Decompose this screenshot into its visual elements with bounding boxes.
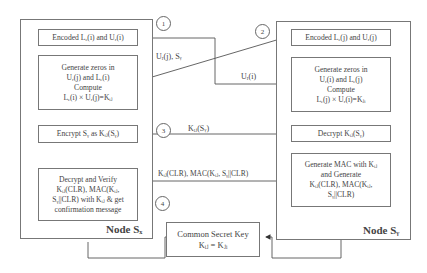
encrypt-sy-text: Encrypt Sᵧ as Kᵢⱼ(Sᵧ) bbox=[57, 129, 119, 139]
edge-label-uc-j-sy: Uᵣ(j), Sᵧ bbox=[156, 52, 182, 61]
line: Uᵣ(i) and Lₑ(j) bbox=[320, 75, 363, 85]
generate-mac-box: Generate MAC with Kᵢⱼ and Generate Kᵢⱼ(C… bbox=[291, 153, 391, 207]
line: Kᵢⱼ = Kⱼᵢ bbox=[199, 240, 228, 251]
step-2-marker: 2 bbox=[255, 24, 270, 39]
edge-label-mac-message: Kᵢⱼ(CLR), MAC(Kᵢⱼ, Sᵧ||CLR) bbox=[158, 169, 248, 178]
line: Common Secret Key bbox=[177, 229, 248, 240]
encoded-sx-text: Encoded Lₑ(i) and Uᵣ(i) bbox=[52, 33, 123, 43]
line: Sᵧ||CLR) with Kᵢⱼ & get bbox=[52, 195, 124, 205]
decrypt-verify-box: Decrypt and Verify Kᵢⱼ(CLR), MAC(Kᵢⱼ, Sᵧ… bbox=[38, 168, 138, 221]
line: and Generate bbox=[321, 170, 361, 180]
line: Lₑ(j) × Uᵣ(i)=Kⱼᵢ bbox=[316, 95, 365, 105]
line: Generate zeros in bbox=[314, 65, 367, 75]
step-4-marker: 4 bbox=[155, 196, 170, 211]
encoded-sy-text: Encoded Lₑ(j) and Uᵣ(j) bbox=[305, 33, 376, 43]
line: Kᵢⱼ(CLR), MAC(Kᵢⱼ, bbox=[57, 185, 120, 195]
line: Compute bbox=[74, 83, 102, 93]
step-3-marker: 3 bbox=[156, 123, 171, 138]
encrypt-sy-box: Encrypt Sᵧ as Kᵢⱼ(Sᵧ) bbox=[38, 125, 138, 143]
encoded-sy-box: Encoded Lₑ(j) and Uᵣ(j) bbox=[291, 29, 391, 46]
line: confirmation message bbox=[55, 205, 122, 215]
common-secret-key-box: Common Secret Key Kᵢⱼ = Kⱼᵢ bbox=[166, 222, 260, 257]
line: Kᵢⱼ(CLR), MAC(Kᵢⱼ, bbox=[310, 180, 373, 190]
edge-label-uc-i: Uᵣ(i) bbox=[241, 72, 256, 81]
generate-zeros-sx-box: Generate zeros in Uᵣ(j) and Lₑ(i) Comput… bbox=[38, 55, 138, 110]
decrypt-sy-text: Decrypt Kᵢⱼ(Sᵧ) bbox=[318, 129, 364, 139]
line: Uᵣ(j) and Lₑ(i) bbox=[67, 73, 110, 83]
step-1-marker: 1 bbox=[156, 16, 171, 31]
node-sy-label: Node Sᵧ bbox=[363, 224, 399, 236]
node-sx-label: Node Sₓ bbox=[106, 223, 142, 235]
line: Compute bbox=[327, 85, 355, 95]
line: Generate zeros in bbox=[61, 63, 114, 73]
encoded-sx-box: Encoded Lₑ(i) and Uᵣ(i) bbox=[38, 29, 138, 46]
decrypt-sy-box: Decrypt Kᵢⱼ(Sᵧ) bbox=[291, 125, 391, 142]
line: Lₑ(i) × Uᵣ(j)=Kᵢⱼ bbox=[63, 93, 112, 103]
line: Sᵧ||CLR) bbox=[328, 190, 355, 200]
edge-label-kij-sy: Kᵢⱼ(Sᵧ) bbox=[188, 124, 209, 133]
line: Generate MAC with Kᵢⱼ bbox=[305, 160, 378, 170]
generate-zeros-sy-box: Generate zeros in Uᵣ(i) and Lₑ(j) Comput… bbox=[291, 57, 391, 112]
line: Decrypt and Verify bbox=[59, 175, 117, 185]
